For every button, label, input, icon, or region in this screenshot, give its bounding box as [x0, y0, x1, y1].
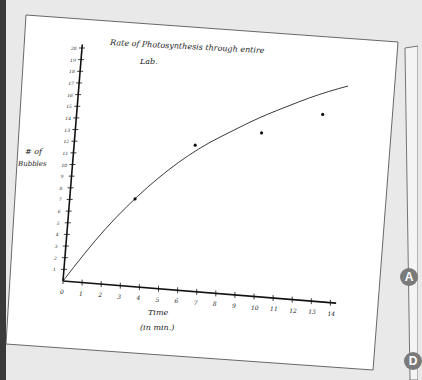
y-tick-label: 14 — [65, 116, 71, 121]
x-tick-label: 2 — [97, 291, 102, 298]
data-point — [194, 144, 197, 147]
y-tick-label: 17 — [68, 81, 74, 86]
y-tick-label: 3 — [55, 244, 58, 249]
x-tick-label: 12 — [289, 307, 297, 314]
x-axis-label-line2: (in min.) — [140, 323, 174, 332]
y-tick-label: 19 — [70, 58, 76, 63]
y-tick-label: 6 — [58, 209, 61, 214]
x-tick-label: 9 — [232, 302, 236, 309]
y-tick-label: 12 — [63, 139, 69, 144]
x-tick-label: 10 — [251, 304, 259, 311]
y-tick-label: 11 — [62, 151, 68, 156]
x-tick-label: 6 — [175, 297, 179, 304]
y-tick-label: 5 — [57, 221, 60, 226]
x-tick-label: 13 — [308, 308, 316, 315]
y-tick-label: 7 — [59, 197, 62, 202]
x-tick-label: 3 — [117, 293, 121, 300]
y-tick-label: 2 — [53, 256, 57, 261]
y-tick-label: 4 — [55, 232, 59, 237]
y-tick-label: 8 — [60, 186, 63, 191]
x-tick-label: 11 — [270, 305, 278, 312]
x-tick-label: 5 — [156, 296, 160, 303]
y-tick-label: 13 — [64, 128, 70, 133]
data-point — [260, 131, 263, 134]
x-tick-label: 8 — [213, 300, 217, 307]
x-tick-label: 7 — [194, 299, 198, 306]
x-tick-label: 14 — [327, 310, 335, 317]
y-tick-label: 20 — [70, 46, 77, 51]
x-tick-label: 1 — [79, 290, 83, 297]
x-tick-label: 4 — [135, 294, 140, 301]
y-tick-label: 16 — [67, 93, 73, 98]
data-point — [321, 113, 324, 116]
y-tick-label: 9 — [61, 174, 64, 179]
marker-a: A — [400, 268, 418, 286]
x-tick-label: 0 — [60, 288, 64, 295]
y-axis-label: # of — [25, 147, 44, 156]
marker-d: D — [404, 352, 422, 370]
data-point — [133, 197, 136, 200]
background-card — [405, 46, 418, 380]
y-tick-label: 10 — [62, 163, 68, 168]
y-axis-label-line2: Bubbles — [17, 160, 47, 168]
y-tick-label: 18 — [69, 69, 75, 74]
y-tick-label: 15 — [66, 104, 72, 109]
y-tick-label: 1 — [53, 267, 56, 272]
chart-title-line2: Lab. — [139, 57, 158, 66]
paper-sheet — [6, 15, 398, 370]
x-axis-label: Time — [148, 308, 168, 317]
